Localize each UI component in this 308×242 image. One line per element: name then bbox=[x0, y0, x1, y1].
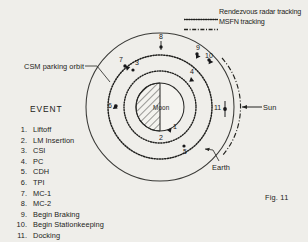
event-label: Liftoff bbox=[33, 125, 51, 136]
event-number: 8. bbox=[8, 199, 33, 210]
event-number: 4. bbox=[8, 157, 33, 168]
node-label-7: 7 bbox=[119, 56, 123, 63]
legend-item-msfn: MSFN tracking bbox=[184, 17, 308, 27]
event-list-item: 3. CSI bbox=[8, 146, 118, 157]
event-label: CDH bbox=[33, 167, 49, 178]
node-label-3: 3 bbox=[135, 59, 139, 66]
node-label-1: 1 bbox=[173, 123, 177, 130]
node-label-9: 9 bbox=[196, 44, 200, 51]
figure-caption: Fig. 11 bbox=[265, 193, 288, 202]
node-label-5: 5 bbox=[183, 148, 187, 155]
node-label-8: 8 bbox=[159, 33, 163, 40]
event-number: 11. bbox=[8, 231, 33, 242]
event-list-item: 4. PC bbox=[8, 157, 118, 168]
event-list-item: 6. TPI bbox=[8, 178, 118, 189]
legend-label-rendezvous-radar: Rendezvous radar tracking bbox=[219, 8, 301, 16]
event-label: MC-1 bbox=[33, 189, 51, 200]
event-number: 6. bbox=[8, 178, 33, 189]
legend-item-rendezvous-radar: Rendezvous radar tracking bbox=[184, 7, 308, 17]
event-number: 2. bbox=[8, 136, 33, 147]
moon-label: Moon bbox=[153, 104, 169, 111]
event-list-item: 8. MC-2 bbox=[8, 199, 118, 210]
node-label-4: 4 bbox=[190, 68, 194, 75]
event-label: Docking bbox=[33, 231, 60, 242]
event-list-item: 2. LM Insertion bbox=[8, 136, 118, 147]
legend-label-msfn: MSFN tracking bbox=[219, 18, 265, 26]
event-number: 9. bbox=[8, 210, 33, 221]
node-label-11: 11 bbox=[214, 104, 221, 111]
event-label: TPI bbox=[33, 178, 45, 189]
event-label: Begin Braking bbox=[33, 210, 80, 221]
dash-dot-line-icon bbox=[184, 19, 218, 26]
event-number: 10. bbox=[8, 220, 33, 231]
event-list-item: 1. Liftoff bbox=[8, 125, 118, 136]
node-label-10: 10 bbox=[205, 52, 213, 59]
figure-lunar-rendezvous: 1 2 3 4 5 6 7 8 9 10 11 CSM parking orbi… bbox=[0, 0, 308, 242]
event-list-item: 11. Docking bbox=[8, 231, 118, 242]
event-number: 5. bbox=[8, 167, 33, 178]
event-list-item: 5. CDH bbox=[8, 167, 118, 178]
event-list: EVENT 1. Liftoff 2. LM Insertion 3. CSI … bbox=[8, 104, 118, 242]
event-label: LM Insertion bbox=[33, 136, 74, 147]
earth-label: Earth bbox=[212, 163, 230, 172]
event-number: 1. bbox=[8, 125, 33, 136]
event-label: PC bbox=[33, 157, 43, 168]
event-list-heading: EVENT bbox=[30, 104, 118, 114]
event-label: MC-2 bbox=[33, 199, 51, 210]
event-number: 3. bbox=[8, 146, 33, 157]
legend: Rendezvous radar tracking MSFN tracking bbox=[184, 7, 308, 27]
node-label-2: 2 bbox=[159, 134, 163, 141]
event-number: 7. bbox=[8, 189, 33, 200]
event-list-item: 9. Begin Braking bbox=[8, 210, 118, 221]
event-label: Begin Stationkeeping bbox=[33, 220, 104, 231]
event-list-item: 10. Begin Stationkeeping bbox=[8, 220, 118, 231]
event-label: CSI bbox=[33, 146, 45, 157]
sun-label: Sun bbox=[263, 103, 276, 112]
event-list-item: 7. MC-1 bbox=[8, 189, 118, 200]
dotted-line-icon bbox=[184, 9, 218, 16]
csm-parking-orbit-label: CSM parking orbit bbox=[24, 62, 84, 71]
